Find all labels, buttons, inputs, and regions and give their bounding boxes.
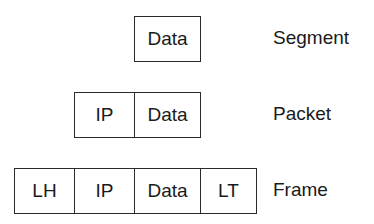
frame-data-cell: Data: [134, 168, 201, 214]
frame-ip-cell: IP: [74, 168, 135, 214]
frame-lh-cell: LH: [14, 168, 75, 214]
packet-data-cell: Data: [134, 92, 201, 138]
frame-label: Frame: [273, 179, 328, 201]
packet-label: Packet: [273, 103, 331, 125]
segment-label: Segment: [273, 27, 349, 49]
frame-lt-cell: LT: [200, 168, 257, 214]
packet-ip-cell: IP: [74, 92, 135, 138]
segment-data-cell: Data: [134, 16, 201, 62]
